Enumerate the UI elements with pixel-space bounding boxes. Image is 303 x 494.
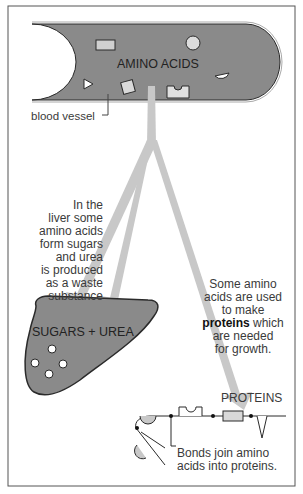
liver-process-text: In the liver some amino acids form sugar… <box>8 199 103 303</box>
liver <box>25 296 158 395</box>
protein-process-text: Some amino acids are used to makeprotein… <box>188 278 298 356</box>
liver-label: SUGARS + UREA <box>32 326 134 339</box>
square-molecule-icon <box>121 80 136 95</box>
protein-text-pre: Some amino acids are used to make <box>204 277 282 317</box>
rectangle-molecule-icon <box>96 40 115 50</box>
amino-acid-diagram: AMINO ACIDS blood vessel In the liver so… <box>0 0 303 494</box>
vessel-label: AMINO ACIDS <box>117 58 199 71</box>
protein-text-bold: proteins <box>202 316 249 330</box>
blood-vessel-caption: blood vessel <box>31 110 95 123</box>
bonds-caption: Bonds join amino acids into proteins. <box>177 447 277 473</box>
circle-molecule-icon <box>186 36 200 50</box>
proteins-label: PROTEINS <box>221 392 282 405</box>
